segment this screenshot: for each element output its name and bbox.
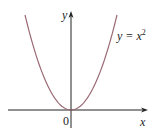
x-axis-label: x — [140, 116, 145, 128]
curve-label: y = x2 — [117, 27, 146, 42]
y-axis-label: y — [62, 9, 67, 21]
parabola-plot — [0, 0, 155, 130]
curve-label-exponent: 2 — [142, 28, 146, 37]
curve-label-text: y = x — [117, 29, 142, 43]
origin-label: 0 — [63, 115, 69, 127]
